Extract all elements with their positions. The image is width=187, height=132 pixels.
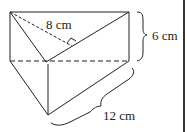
prism-diagram: [0, 0, 187, 132]
right-border: [183, 0, 185, 132]
prism-length-label: 12 cm: [103, 108, 135, 124]
triangle-height-label: 8 cm: [46, 17, 72, 33]
prism-height-label: 6 cm: [152, 28, 178, 44]
